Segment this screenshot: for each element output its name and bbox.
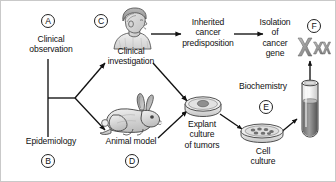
figure-canvas: A B C D E F Clinical observation Epidemi… — [0, 0, 336, 182]
key-circle-a: A — [41, 14, 55, 28]
key-circle-c: C — [94, 14, 108, 28]
petri-dish-cells-icon — [239, 121, 285, 145]
label-animal-model: Animal model — [93, 136, 169, 146]
label-biochemistry: Biochemistry — [229, 81, 297, 91]
human-bust-icon — [109, 7, 153, 49]
label-explant-culture-of-tumors: Explant culture of tumors — [169, 119, 235, 150]
label-isolation-of-cancer-gene: Isolation of cancer gene — [249, 17, 301, 59]
test-tube-icon — [298, 79, 322, 139]
rabbit-icon — [99, 93, 167, 139]
chromosomes-icon — [297, 37, 329, 57]
key-circle-e: E — [259, 100, 273, 114]
label-clinical-observation: Clinical observation — [7, 34, 95, 55]
petri-dish-tumor-icon — [183, 93, 223, 119]
key-circle-d: D — [125, 154, 139, 168]
key-circle-b: B — [41, 154, 55, 168]
label-inherited-cancer-predisposition: Inherited cancer predisposition — [167, 17, 249, 48]
key-circle-f: F — [307, 19, 321, 33]
label-epidemiology: Epidemiology — [7, 136, 95, 146]
label-clinical-investigation: Clinical investigation — [93, 46, 169, 67]
label-cell-culture: Cell culture — [239, 146, 287, 167]
